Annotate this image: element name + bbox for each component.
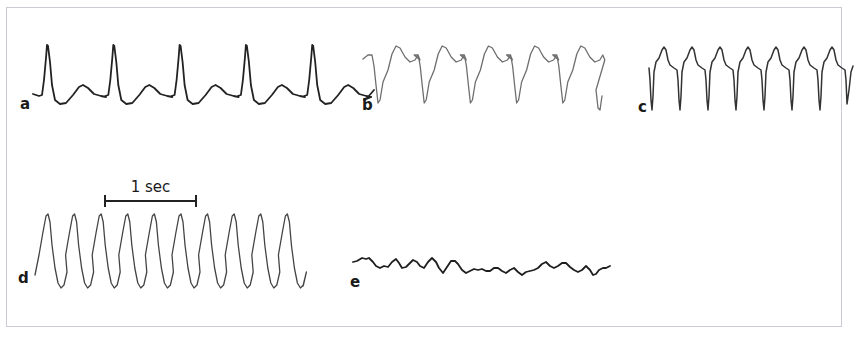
- waveform-b: [363, 46, 605, 110]
- panel-label-a: a: [20, 95, 30, 113]
- panel-e: e: [350, 258, 610, 291]
- waveform-a: [33, 45, 374, 104]
- panel-label-e: e: [350, 273, 360, 291]
- time-scale-bar: 1 sec: [105, 178, 196, 207]
- waveform-d: [35, 214, 306, 288]
- panel-c: c: [638, 47, 853, 116]
- ecg-figure: a b c d e 1 sec: [0, 0, 855, 340]
- panel-label-c: c: [638, 98, 647, 116]
- panel-a: a: [20, 45, 374, 113]
- panel-d: d: [18, 214, 306, 288]
- waveform-e: [353, 258, 610, 275]
- waveform-c: [649, 47, 853, 110]
- panel-label-b: b: [362, 96, 373, 114]
- scale-bar-label: 1 sec: [131, 178, 171, 196]
- panel-b: b: [362, 46, 605, 114]
- panel-label-d: d: [18, 269, 29, 287]
